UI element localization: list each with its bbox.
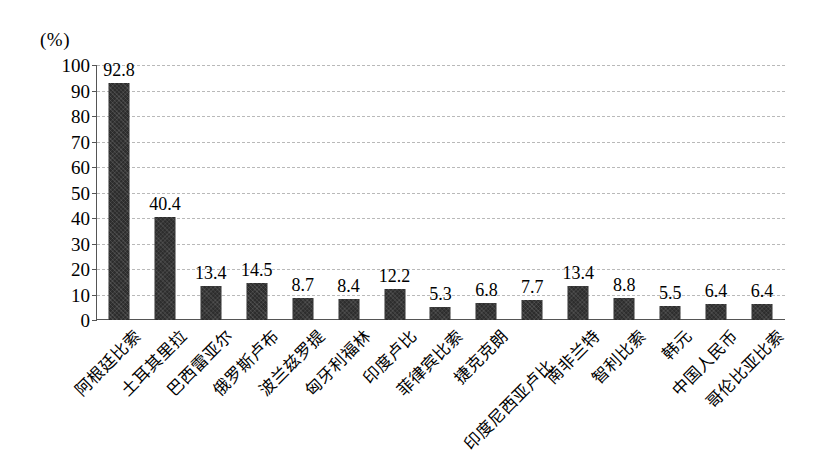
bar-value-label: 5.5	[659, 284, 682, 302]
bar-value-label: 6.8	[475, 281, 498, 299]
y-axis-tick-label: 90	[38, 81, 90, 100]
y-axis-tick-label: 10	[38, 285, 90, 304]
bar	[246, 283, 267, 320]
bar-value-label: 13.4	[195, 264, 227, 282]
bar-value-label: 40.4	[149, 195, 181, 213]
bar	[476, 303, 497, 320]
bar-series: 92.840.413.414.58.78.412.25.36.87.713.48…	[96, 65, 785, 320]
bar-slot: 8.7	[280, 65, 326, 320]
y-axis-tick-label: 0	[38, 311, 90, 330]
bar-slot: 12.2	[372, 65, 418, 320]
bar	[384, 289, 405, 320]
bar-slot: 13.4	[188, 65, 234, 320]
y-axis-tick-label: 50	[38, 183, 90, 202]
y-axis-tick-mark	[92, 320, 97, 321]
bar-value-label: 7.7	[521, 278, 544, 296]
bar-value-label: 8.4	[337, 277, 360, 295]
bar	[568, 286, 589, 320]
bar-value-label: 8.7	[291, 276, 314, 294]
bar-slot: 6.4	[739, 65, 785, 320]
bar-slot: 6.4	[693, 65, 739, 320]
bar	[108, 83, 129, 320]
bar-value-label: 14.5	[241, 261, 273, 279]
bar	[154, 217, 175, 320]
bar-slot: 5.3	[418, 65, 464, 320]
bar-value-label: 6.4	[751, 282, 774, 300]
bar	[660, 306, 681, 320]
y-axis-tick-label: 60	[38, 158, 90, 177]
x-axis-category-label: 韩元	[660, 328, 696, 364]
bar-slot: 8.8	[601, 65, 647, 320]
bar-slot: 5.5	[647, 65, 693, 320]
bar-slot: 7.7	[509, 65, 555, 320]
bar	[200, 286, 221, 320]
bar-slot: 13.4	[555, 65, 601, 320]
bar-slot: 6.8	[463, 65, 509, 320]
bar	[522, 300, 543, 320]
bar	[338, 299, 359, 320]
bar-value-label: 6.4	[705, 282, 728, 300]
bar-value-label: 13.4	[563, 264, 595, 282]
x-axis-category-labels: 阿根廷比索土耳其里拉巴西雷亚尔俄罗斯卢布波兰兹罗提匈牙利福林印度卢比菲律宾比索捷…	[96, 322, 785, 462]
y-axis-tick-label: 30	[38, 234, 90, 253]
y-axis-tick-label: 70	[38, 132, 90, 151]
y-axis-tick-labels: 1009080706050403020100	[38, 65, 90, 320]
bar-value-label: 8.8	[613, 276, 636, 294]
y-axis-tick-label: 100	[38, 56, 90, 75]
bar-slot: 40.4	[142, 65, 188, 320]
bar-value-label: 92.8	[103, 61, 135, 79]
bar	[752, 304, 773, 320]
bar	[292, 298, 313, 320]
bar-chart: (%) 1009080706050403020100 92.840.413.41…	[0, 0, 827, 464]
y-axis-tick-label: 80	[38, 107, 90, 126]
bar-slot: 92.8	[96, 65, 142, 320]
bar	[614, 298, 635, 320]
bar-slot: 8.4	[326, 65, 372, 320]
bar-value-label: 5.3	[429, 285, 452, 303]
y-axis-unit-label: (%)	[40, 30, 70, 49]
y-axis-tick-label: 40	[38, 209, 90, 228]
y-axis-tick-label: 20	[38, 260, 90, 279]
bar	[430, 307, 451, 321]
bar-slot: 14.5	[234, 65, 280, 320]
bar	[706, 304, 727, 320]
bar-value-label: 12.2	[379, 267, 411, 285]
